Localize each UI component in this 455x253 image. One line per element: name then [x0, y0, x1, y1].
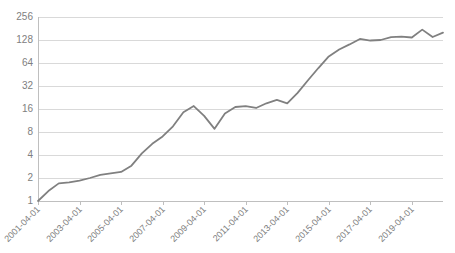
x-tick-label: 2007-04-01	[127, 204, 167, 244]
y-tick-label: 32	[22, 80, 34, 91]
x-axis-labels-group: 2001-04-012003-04-012005-04-012007-04-01…	[2, 204, 416, 244]
gridlines-group	[38, 18, 443, 202]
y-tick-label: 8	[27, 126, 33, 137]
y-tick-label: 128	[16, 34, 33, 45]
x-tick-label: 2019-04-01	[376, 204, 416, 244]
chart-container: 2561286432168421 2001-04-012003-04-01200…	[0, 0, 455, 253]
x-tick-label: 2017-04-01	[334, 204, 374, 244]
x-tick-label: 2009-04-01	[168, 204, 208, 244]
x-tick-label: 2001-04-01	[2, 204, 42, 244]
x-tick-label: 2003-04-01	[44, 204, 84, 244]
y-tick-label: 4	[27, 149, 33, 160]
y-axis-labels-group: 2561286432168421	[16, 11, 33, 206]
y-tick-label: 1	[27, 195, 33, 206]
x-tick-label: 2015-04-01	[293, 204, 333, 244]
x-tick-label: 2013-04-01	[251, 204, 291, 244]
y-tick-label: 64	[22, 57, 34, 68]
line-chart: 2561286432168421 2001-04-012003-04-01200…	[0, 0, 455, 253]
x-tick-label: 2005-04-01	[85, 204, 125, 244]
series-line-value	[38, 30, 443, 201]
x-tick-label: 2011-04-01	[211, 204, 250, 243]
y-tick-label: 2	[27, 172, 33, 183]
y-tick-label: 16	[22, 103, 34, 114]
y-tick-label: 256	[16, 11, 33, 22]
